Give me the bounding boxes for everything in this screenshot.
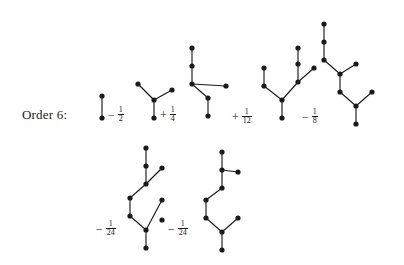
tree-root-node — [151, 115, 156, 120]
tree-edge — [264, 86, 282, 100]
fraction-denominator: 12 — [242, 116, 252, 125]
coefficient-fraction: 112 — [242, 108, 252, 126]
tree-node — [143, 145, 148, 150]
tree-node — [219, 167, 224, 172]
tree-edge — [340, 64, 356, 74]
coefficient-sign: + — [160, 109, 167, 121]
fraction-numerator: 1 — [180, 220, 186, 228]
tree-node — [143, 227, 148, 232]
tree-node — [219, 149, 224, 154]
tree-edge — [340, 92, 356, 106]
long-zigzag-chain-tree — [312, 14, 382, 134]
fraction-numerator: 1 — [118, 106, 124, 114]
tree-edge — [130, 184, 146, 198]
tree-edge — [138, 84, 154, 100]
tree-node — [337, 89, 342, 94]
tree-node — [321, 39, 326, 44]
coefficient-label: −12 — [108, 106, 124, 124]
tree-edge — [206, 218, 222, 232]
fraction-denominator: 24 — [106, 228, 116, 237]
tree-node — [135, 81, 140, 86]
tree-root-node — [205, 113, 210, 118]
tree-root-node — [143, 245, 148, 250]
tree-node — [159, 197, 164, 202]
tree-node — [279, 97, 284, 102]
tree-edge — [192, 84, 208, 98]
tree-node — [321, 21, 326, 26]
tree-node — [159, 165, 164, 170]
tree-node — [219, 185, 224, 190]
fraction-numerator: 1 — [108, 220, 114, 228]
fraction-denominator: 4 — [170, 114, 176, 123]
tree-node — [369, 89, 374, 94]
tree-node — [337, 71, 342, 76]
order-label: Order 6: — [22, 107, 67, 123]
coefficient-fraction: 124 — [178, 220, 188, 238]
coefficient-sign: + — [232, 111, 239, 123]
tree-node — [353, 61, 358, 66]
tree-root-node — [99, 115, 104, 120]
tree-node — [189, 45, 194, 50]
coefficient-fraction: 124 — [106, 220, 116, 238]
coefficient-label: −124 — [168, 220, 188, 238]
tree-node — [205, 95, 210, 100]
tree-node — [189, 81, 194, 86]
tree-edge — [146, 200, 162, 230]
fraction-denominator: 2 — [118, 114, 124, 123]
tree-node — [261, 65, 266, 70]
tree-node — [353, 103, 358, 108]
tree-edge — [324, 60, 340, 74]
tree-edge — [130, 216, 146, 230]
coefficient-sign: − — [302, 111, 309, 123]
tree-edge — [282, 82, 298, 100]
figure-canvas: Order 6: −12+14+112−18−124−124 — [0, 0, 404, 265]
tree-node — [127, 195, 132, 200]
tree-node — [321, 57, 326, 62]
tree-root-node — [219, 247, 224, 252]
tree-node — [169, 87, 174, 92]
tree-edge — [146, 168, 162, 184]
tree-root-node — [353, 121, 358, 126]
coefficient-label: −124 — [96, 220, 116, 238]
tree-root-node — [279, 115, 284, 120]
tree-node — [261, 83, 266, 88]
tree-edge — [222, 218, 238, 232]
tree-node — [235, 169, 240, 174]
tree-node — [143, 163, 148, 168]
tree-node — [151, 97, 156, 102]
tree-node — [235, 215, 240, 220]
tree-node — [143, 181, 148, 186]
fraction-denominator: 24 — [178, 228, 188, 237]
double-zigzag-tree — [180, 42, 236, 126]
fraction-numerator: 1 — [170, 106, 176, 114]
coefficient-label: +112 — [232, 108, 252, 126]
tree-node — [219, 229, 224, 234]
coefficient-sign: − — [96, 223, 103, 235]
tall-branched-tree-b — [192, 146, 248, 260]
coefficient-fraction: 14 — [170, 106, 176, 124]
coefficient-sign: − — [168, 223, 175, 235]
tree-node — [295, 61, 300, 66]
tree-node — [223, 83, 228, 88]
coefficient-sign: − — [108, 109, 115, 121]
coefficient-fraction: 12 — [118, 106, 124, 124]
tree-edge — [356, 92, 372, 106]
tree-node — [189, 63, 194, 68]
coefficient-label: +14 — [160, 106, 176, 124]
tree-edge — [192, 84, 226, 86]
tree-node — [295, 45, 300, 50]
tree-node — [127, 213, 132, 218]
tree-node — [159, 217, 164, 222]
tree-node — [203, 197, 208, 202]
tree-node — [99, 93, 104, 98]
tree-edge — [206, 188, 222, 200]
fraction-numerator: 1 — [244, 108, 250, 116]
tree-node — [203, 215, 208, 220]
tree-node — [295, 79, 300, 84]
tree-edge — [154, 90, 172, 100]
tall-branched-tree-a — [116, 148, 172, 258]
